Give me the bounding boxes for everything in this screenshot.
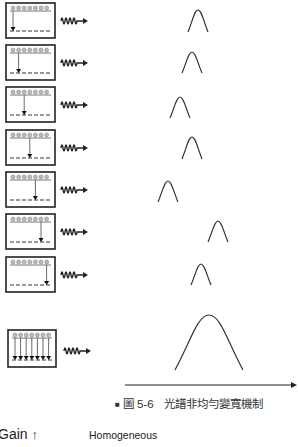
arrow-head-icon bbox=[83, 145, 88, 151]
up-arrow-icon: ↑ bbox=[31, 427, 38, 442]
figure-title: 光譜非均勻變寬機制 bbox=[164, 398, 263, 410]
atom-cell-1 bbox=[6, 3, 55, 38]
spectral-line-1 bbox=[188, 10, 208, 32]
atom-cell-4 bbox=[6, 130, 55, 165]
axis-arrow-icon bbox=[291, 382, 297, 388]
photon-wave-icon bbox=[61, 60, 83, 66]
spectral-line-6 bbox=[208, 221, 228, 242]
photon-wave-icon bbox=[61, 145, 83, 151]
arrow-head-icon bbox=[83, 229, 88, 235]
photon-wave-icon bbox=[61, 18, 83, 24]
arrow-head-icon bbox=[83, 102, 88, 108]
combined-broadened-line bbox=[175, 315, 243, 370]
atom-cell-3 bbox=[6, 87, 55, 122]
arrow-head-icon bbox=[86, 348, 91, 354]
photon-wave-icon bbox=[61, 187, 83, 193]
atom-cell-2 bbox=[6, 45, 55, 80]
spectral-line-2 bbox=[182, 52, 202, 73]
photon-wave-icon bbox=[64, 348, 86, 354]
arrow-head-icon bbox=[83, 18, 88, 24]
caption-marker: ■ bbox=[115, 400, 120, 409]
inhomogeneous-broadening-diagram bbox=[0, 0, 298, 447]
photon-wave-icon bbox=[61, 102, 83, 108]
arrow-head-icon bbox=[83, 187, 88, 193]
atom-cell-all bbox=[8, 330, 56, 367]
atom-cell-7 bbox=[6, 257, 55, 292]
photon-wave-icon bbox=[61, 272, 83, 278]
spectral-line-5 bbox=[158, 181, 178, 202]
spectral-line-7 bbox=[191, 264, 211, 285]
figure-number: 圖 5-6 bbox=[123, 398, 154, 410]
gain-axis-label: Gain ↑ bbox=[0, 426, 38, 442]
atom-cell-5 bbox=[6, 172, 55, 207]
arrow-head-icon bbox=[83, 272, 88, 278]
homogeneous-title: Homogeneous bbox=[89, 429, 157, 441]
spectral-line-4 bbox=[182, 137, 202, 159]
photon-wave-icon bbox=[61, 229, 83, 235]
atom-cell-6 bbox=[6, 214, 55, 249]
figure-caption: ■圖 5-6光譜非均勻變寬機制 bbox=[115, 395, 263, 411]
arrow-head-icon bbox=[83, 60, 88, 66]
spectral-line-3 bbox=[170, 97, 190, 118]
